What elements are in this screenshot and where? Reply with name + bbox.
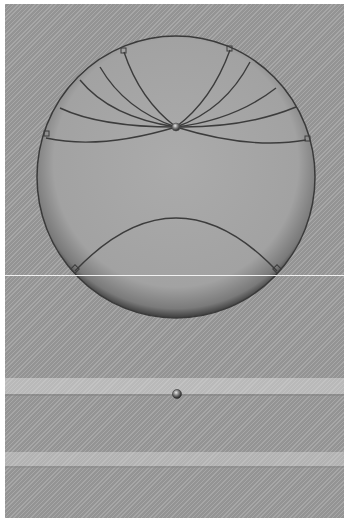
horizontal-highlight-line [5, 275, 344, 276]
convergence-point [172, 123, 180, 131]
sphere-diagram [0, 0, 352, 529]
small-ball [173, 390, 182, 399]
